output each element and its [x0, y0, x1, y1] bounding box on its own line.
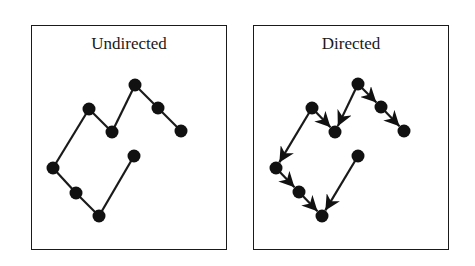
graph-node: [106, 126, 119, 139]
graph-node: [47, 162, 60, 175]
directed-edge: [325, 156, 358, 210]
graph-node: [316, 210, 329, 223]
undirected-edge: [112, 85, 135, 132]
graph-node: [70, 187, 83, 200]
graph-node: [83, 103, 96, 116]
graph-node: [270, 162, 283, 175]
directed-edge: [279, 108, 312, 162]
graph-node: [293, 186, 306, 199]
graph-node: [352, 78, 365, 91]
undirected-edge: [99, 156, 134, 216]
graph-node: [375, 101, 388, 114]
graph-node: [128, 150, 141, 163]
directed-edge: [338, 84, 358, 126]
graph-canvas: [0, 0, 475, 266]
graph-node: [129, 79, 142, 92]
edges-layer: [53, 84, 400, 216]
graph-node: [306, 102, 319, 115]
graph-node: [352, 150, 365, 163]
undirected-edge: [53, 109, 89, 168]
graph-node: [93, 210, 106, 223]
graph-node: [175, 125, 188, 138]
graph-node: [152, 102, 165, 115]
graph-node: [329, 126, 342, 139]
graph-node: [398, 125, 411, 138]
nodes-layer: [47, 78, 411, 223]
